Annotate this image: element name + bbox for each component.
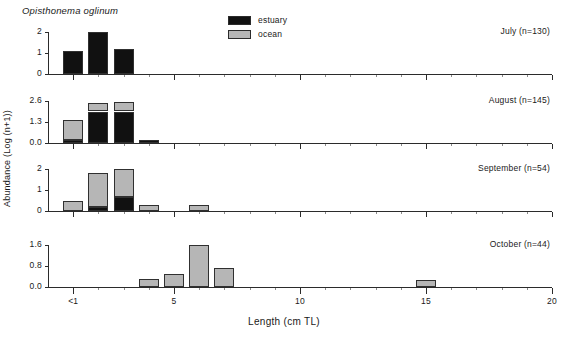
x-minor-tick (325, 288, 326, 290)
x-major-tick (174, 288, 175, 294)
x-minor-tick (350, 288, 351, 290)
y-tick (45, 245, 48, 246)
x-tick-label: 20 (532, 296, 568, 306)
x-minor-tick (149, 288, 150, 290)
y-tick-label: 0.8 (6, 260, 42, 270)
x-minor-tick (199, 288, 200, 290)
x-minor-tick (224, 288, 225, 290)
x-major-tick (426, 288, 427, 294)
x-minor-tick (476, 288, 477, 290)
x-minor-tick (275, 288, 276, 290)
bar-segment-ocean (214, 268, 234, 287)
bar-segment-ocean (139, 279, 159, 287)
x-minor-tick (98, 288, 99, 290)
y-axis-line (48, 245, 49, 288)
x-tick-label: <1 (53, 296, 93, 306)
x-minor-tick (401, 288, 402, 290)
x-tick-label: 10 (280, 296, 320, 306)
x-tick-label: 15 (406, 296, 446, 306)
x-minor-tick (250, 288, 251, 290)
x-minor-tick (527, 288, 528, 290)
y-tick-label: 1.6 (6, 239, 42, 249)
x-major-tick (552, 288, 553, 294)
figure-container: Opisthonema oglinum estuary ocean Abunda… (0, 0, 568, 342)
bar-segment-ocean (164, 274, 184, 287)
x-tick-label: 5 (154, 296, 194, 306)
x-minor-tick (451, 288, 452, 290)
y-tick (45, 266, 48, 267)
bar-segment-ocean (189, 245, 209, 287)
x-minor-tick (376, 288, 377, 290)
panel-label-october: October (n=44) (490, 239, 550, 249)
x-major-tick (73, 288, 74, 294)
x-major-tick (300, 288, 301, 294)
panel-october: October (n=44)0.00.81.6<15101520 (0, 0, 568, 342)
x-minor-tick (124, 288, 125, 290)
y-tick-label: 0.0 (6, 281, 42, 291)
x-minor-tick (502, 288, 503, 290)
y-tick (45, 287, 48, 288)
bar-segment-ocean (416, 280, 436, 287)
